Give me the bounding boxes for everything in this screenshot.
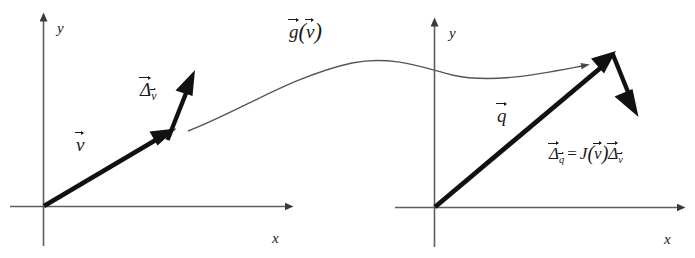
vector-delta-q-head xyxy=(615,89,639,117)
vector-v-shaft xyxy=(44,138,160,206)
left-x-axis-label: x xyxy=(272,231,279,246)
equation-open-paren: ( xyxy=(587,142,594,164)
g-open-paren: ( xyxy=(299,19,306,44)
jacobian-equation: Δq=J(v)Δv xyxy=(549,143,623,165)
jacobian-diagram: y x v Δv g(v) y x q Δq=J(v)Δv xyxy=(0,0,695,258)
vector-v-symbol: v xyxy=(76,134,84,154)
vector-delta-v-shaft xyxy=(168,92,187,140)
right-x-axis-label: x xyxy=(664,232,671,247)
left-y-axis-label: y xyxy=(57,21,64,36)
equation-lhs-subscript: q xyxy=(559,154,564,166)
g-function-label: g(v) xyxy=(289,21,322,43)
equation-lhs-subscript-wrap: q xyxy=(559,154,564,165)
g-mapping-path xyxy=(188,60,582,131)
equation-rhs-subscript-wrap: v xyxy=(618,154,623,165)
vector-q-shaft xyxy=(435,65,604,207)
g-symbol: g xyxy=(289,21,299,41)
right-axes xyxy=(395,25,678,247)
vector-delta-v-label: Δv xyxy=(140,79,156,103)
vector-q-label: q xyxy=(497,105,507,125)
left-axes xyxy=(10,20,286,246)
right-y-axis-label: y xyxy=(449,26,456,41)
equation-jacobian-argument: v xyxy=(594,144,602,162)
left-vectors xyxy=(44,70,195,206)
vector-v-label: v xyxy=(76,134,84,154)
equation-rhs-subscript: v xyxy=(618,154,623,166)
equation-equals-sign: = xyxy=(564,144,580,163)
delta-v-subscript: v xyxy=(151,90,156,103)
vector-q-symbol: q xyxy=(497,105,507,125)
mapping-curve xyxy=(188,60,582,131)
vector-delta-v-head xyxy=(176,70,196,96)
vector-delta-q-shaft xyxy=(613,54,629,93)
g-close-paren: ) xyxy=(314,19,321,44)
delta-v-subscript-wrap: v xyxy=(151,90,156,103)
diagram-canvas xyxy=(0,0,695,258)
g-argument: v xyxy=(306,21,314,41)
